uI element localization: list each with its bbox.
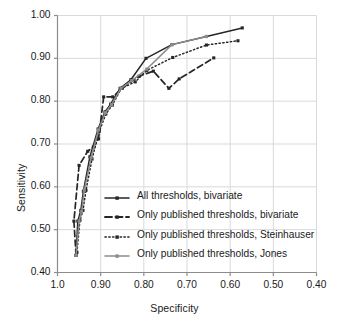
legend-item: All thresholds, bivariate (104, 186, 334, 206)
y-axis-title: Sensitivity (2, 108, 16, 218)
y-tick-label: 0.90 (17, 51, 51, 62)
legend-label: Only published thresholds, bivariate (137, 209, 298, 221)
series-marker (212, 56, 215, 59)
legend-key-icon (104, 248, 130, 260)
x-axis-title: Specificity (0, 302, 349, 314)
series-marker (78, 164, 81, 167)
series-marker (110, 103, 113, 106)
series-marker (241, 26, 244, 29)
y-tick-label: 0.70 (17, 137, 51, 148)
x-tick-label: 0.90 (81, 279, 121, 290)
series-marker (119, 87, 122, 90)
series-marker (86, 150, 89, 153)
series-marker (104, 111, 107, 114)
series-marker (152, 70, 155, 73)
series-marker (170, 43, 173, 46)
series-marker (167, 87, 170, 90)
legend-item: Only published thresholds, Jones (104, 245, 334, 265)
y-tick-label: 0.80 (17, 94, 51, 105)
legend-label: Only published thresholds, Jones (137, 248, 287, 260)
series-marker (80, 210, 83, 213)
y-tick-label: 1.00 (17, 9, 51, 20)
legend-key-icon (104, 209, 130, 221)
series-marker (130, 79, 133, 82)
chart-legend: All thresholds, bivariateOnly published … (104, 186, 334, 264)
legend-label: All thresholds, bivariate (137, 190, 242, 202)
series-marker (111, 95, 114, 98)
series-marker (83, 189, 86, 192)
series-marker (144, 57, 147, 60)
x-tick-label: 0.70 (167, 279, 207, 290)
series-marker (178, 77, 181, 80)
legend-item: Only published thresholds, Steinhauser (104, 225, 334, 245)
x-tick-label: 0.60 (210, 279, 250, 290)
legend-key-icon (104, 190, 130, 202)
y-tick-label: 0.40 (17, 266, 51, 277)
series-marker (90, 156, 93, 159)
series-marker (236, 39, 239, 42)
series-marker (72, 220, 75, 223)
legend-label: Only published thresholds, Steinhauser (137, 229, 314, 241)
series-marker (78, 220, 81, 223)
series-marker (171, 56, 174, 59)
series-marker (102, 95, 105, 98)
x-tick-label: 0.40 (297, 279, 337, 290)
x-tick-label: 1.0 (38, 279, 78, 290)
series-marker (134, 80, 137, 83)
plot-area (0, 0, 349, 324)
x-tick-label: 0.80 (124, 279, 164, 290)
series-marker (205, 44, 208, 47)
y-axis-title-text: Sensitivity (15, 164, 27, 212)
series-marker (145, 67, 148, 70)
legend-item: Only published thresholds, bivariate (104, 206, 334, 226)
series-marker (75, 254, 78, 257)
roc-chart: 0.400.500.600.700.800.901.00 1.00.900.80… (0, 0, 349, 324)
x-tick-label: 0.50 (253, 279, 293, 290)
series-marker (205, 35, 208, 38)
y-tick-label: 0.50 (17, 223, 51, 234)
legend-key-icon (104, 229, 130, 241)
series-marker (97, 128, 100, 131)
